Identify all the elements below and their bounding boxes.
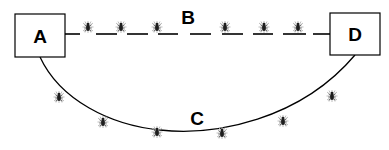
bug-icon — [98, 116, 109, 128]
bug-icon — [152, 126, 163, 138]
path-b-label: B — [181, 7, 195, 28]
bug-icon — [293, 21, 304, 33]
node-d-label: D — [348, 24, 362, 45]
bug-icon — [278, 115, 289, 127]
node-a-label: A — [33, 26, 47, 47]
bug-icon — [152, 21, 163, 33]
node-a: A — [15, 14, 65, 57]
bug-icon — [54, 91, 65, 103]
bug-icon — [116, 21, 127, 33]
bug-icon — [327, 90, 338, 102]
path-c-label: C — [190, 108, 204, 129]
bug-icon — [259, 21, 270, 33]
node-d: D — [330, 13, 380, 55]
bug-icon — [220, 21, 231, 33]
bug-icon — [83, 21, 94, 33]
path-diagram: A D B C — [0, 0, 389, 150]
